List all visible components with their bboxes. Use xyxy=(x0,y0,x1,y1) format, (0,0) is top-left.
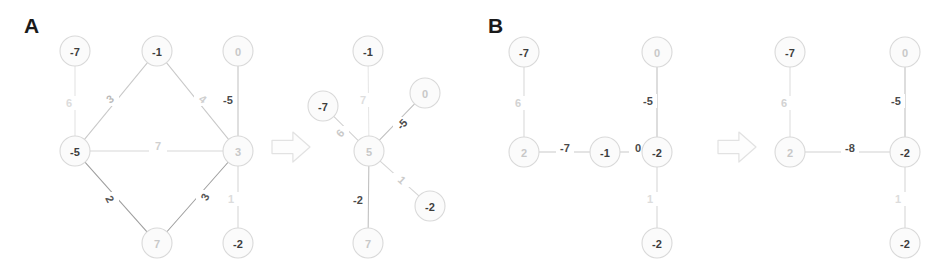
node-value-label: -7 xyxy=(785,47,795,59)
edge-weight-label: 6 xyxy=(66,97,72,109)
figure-root: A B 634-57231-7-10-537-276-51-2-1-705-27… xyxy=(0,0,946,277)
node-value-label: -7 xyxy=(519,47,529,59)
graph-node[interactable]: 7 xyxy=(353,228,383,258)
node-value-label: -2 xyxy=(900,238,910,250)
node-value-label: -7 xyxy=(70,46,80,58)
graph-edge: 6 xyxy=(775,67,793,137)
graph-node[interactable]: -2 xyxy=(890,137,920,167)
node-value-label: 0 xyxy=(422,88,428,100)
node-value-label: -7 xyxy=(318,101,328,113)
edge-weight-label: -5 xyxy=(223,94,233,106)
graph-node[interactable]: -7 xyxy=(308,91,338,121)
edge-weight-label: -2 xyxy=(353,194,363,206)
graph-a-before: 634-57231-7-10-537-2 xyxy=(60,36,253,258)
graph-edge: 1 xyxy=(380,161,419,196)
edge-weight-label: 6 xyxy=(781,97,787,109)
edge-weight-label: 0 xyxy=(635,142,641,154)
graph-node[interactable]: 3 xyxy=(223,136,253,166)
graph-node[interactable]: -2 xyxy=(642,137,672,167)
graph-edge: 6 xyxy=(331,116,358,140)
graph-node[interactable]: -7 xyxy=(60,36,90,66)
graph-node[interactable]: 2 xyxy=(775,137,805,167)
graph-node[interactable]: -1 xyxy=(590,137,620,167)
node-value-label: 0 xyxy=(902,47,908,59)
edge-weight-label: -8 xyxy=(845,142,855,154)
graph-edge: -5 xyxy=(219,66,238,136)
graph-node[interactable]: 5 xyxy=(354,136,384,166)
edge-weight-label: 6 xyxy=(515,97,521,109)
graph-edge: -7 xyxy=(539,141,590,155)
graph-node[interactable]: 0 xyxy=(223,36,253,66)
node-value-label: -2 xyxy=(900,147,910,159)
node-value-label: 0 xyxy=(235,46,241,58)
graph-edge: 1 xyxy=(641,167,659,228)
edge-weight-label: -5 xyxy=(643,95,653,107)
edge-weight-label: 1 xyxy=(228,193,234,205)
graph-edge: 2 xyxy=(85,162,147,232)
node-value-label: 7 xyxy=(365,238,371,250)
node-value-label: -1 xyxy=(152,46,162,58)
graph-edge: -8 xyxy=(805,141,890,155)
edge-weight-label: 7 xyxy=(155,140,161,152)
graph-node[interactable]: -2 xyxy=(642,228,672,258)
graph-edge: 7 xyxy=(354,66,372,136)
node-value-label: 3 xyxy=(235,146,241,158)
edge-weight-label: 1 xyxy=(647,193,653,205)
graph-node[interactable]: 2 xyxy=(509,137,539,167)
graph-edge: 1 xyxy=(889,167,907,228)
graph-node[interactable]: -2 xyxy=(415,191,445,221)
edge-weight-label: 1 xyxy=(895,193,901,205)
graph-node[interactable]: -1 xyxy=(142,36,172,66)
graph-node[interactable]: -7 xyxy=(509,37,539,67)
graph-edge: 3 xyxy=(85,63,148,140)
graph-b-before: 6-5-701-702-1-2-2 xyxy=(509,37,672,258)
node-value-label: -2 xyxy=(652,147,662,159)
graph-canvas: 634-57231-7-10-537-276-51-2-1-705-276-5-… xyxy=(0,0,946,277)
graph-edge: -2 xyxy=(349,166,369,228)
graph-edge: -5 xyxy=(379,104,414,140)
node-value-label: -2 xyxy=(425,201,435,213)
edge-weight-label: -7 xyxy=(560,142,570,154)
graph-node[interactable]: 0 xyxy=(890,37,920,67)
node-value-label: -5 xyxy=(70,146,80,158)
node-value-label: -2 xyxy=(652,238,662,250)
node-value-label: 7 xyxy=(154,238,160,250)
node-value-label: 5 xyxy=(366,146,372,158)
graph-b-after: 6-5-81-702-2-2 xyxy=(775,37,920,258)
node-value-label: 0 xyxy=(654,47,660,59)
graph-edge: -5 xyxy=(639,67,657,137)
node-value-label: -1 xyxy=(600,147,610,159)
node-value-label: 2 xyxy=(521,147,527,159)
graph-node[interactable]: 7 xyxy=(142,228,172,258)
edge-line xyxy=(368,166,369,228)
graph-edge: 6 xyxy=(509,67,527,137)
edge-weight-label: -5 xyxy=(891,95,901,107)
graph-node[interactable]: -5 xyxy=(60,136,90,166)
edge-weight-label: 7 xyxy=(360,94,366,106)
graph-node[interactable]: 0 xyxy=(642,37,672,67)
graph-node[interactable]: -2 xyxy=(890,228,920,258)
graph-node[interactable]: -2 xyxy=(223,228,253,258)
graph-edge: -5 xyxy=(887,67,905,137)
graph-edge: 1 xyxy=(222,166,240,228)
graph-edge: 3 xyxy=(167,162,228,231)
graph-node[interactable]: -7 xyxy=(775,37,805,67)
graph-a-after: 76-51-2-1-705-27 xyxy=(308,36,445,258)
node-value-label: -1 xyxy=(363,46,373,58)
node-value-label: 2 xyxy=(787,147,793,159)
node-value-label: -2 xyxy=(233,238,243,250)
graph-node[interactable]: -1 xyxy=(353,36,383,66)
graph-node[interactable]: 0 xyxy=(410,78,440,108)
graph-edge: 7 xyxy=(90,139,223,153)
transform-arrow-b xyxy=(718,132,756,162)
graph-edge: 6 xyxy=(60,66,78,136)
transform-arrow-a xyxy=(272,132,310,162)
